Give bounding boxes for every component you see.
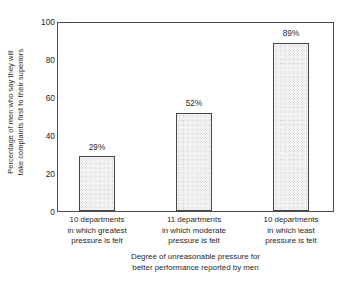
y-axis-title-line-1: Percentage of men who say they will (6, 12, 16, 212)
bar-value-label-greatest: 29% (77, 144, 117, 152)
x-axis-title-line-1: Degree of unreasonable pressure for (57, 252, 334, 263)
y-tick-label-100: 100 (33, 18, 55, 26)
x-axis-title: Degree of unreasonable pressure for bett… (57, 252, 334, 273)
y-tick-label-60: 60 (33, 94, 55, 102)
x-axis-title-line-2: better performance reported by men (57, 263, 334, 274)
y-axis-title-line-2: take complaints first to their superiors (16, 12, 26, 212)
y-tick-label-40: 40 (33, 132, 55, 140)
category-label-least-line-1: 10 departments (233, 215, 348, 226)
category-label-least-line-2: in which least (233, 226, 348, 237)
bar-chart-figure: Percentage of men who say they will take… (0, 0, 348, 287)
y-tick-label-80: 80 (33, 56, 55, 64)
bar-value-label-moderate: 52% (174, 100, 214, 108)
bar-moderate-pressure[interactable] (176, 113, 212, 211)
category-label-least-line-3: pressure is felt (233, 236, 348, 247)
bar-value-label-least: 89% (271, 30, 311, 38)
category-label-least: 10 departments in which least pressure i… (233, 215, 348, 247)
bar-greatest-pressure[interactable] (79, 156, 115, 211)
bar-least-pressure[interactable] (273, 43, 309, 211)
y-tick-label-20: 20 (33, 170, 55, 178)
